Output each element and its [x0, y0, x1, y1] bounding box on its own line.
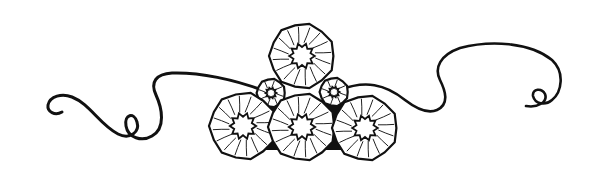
ornament-illustration	[0, 0, 604, 180]
rosette-group	[209, 24, 396, 160]
rosette-bottom-right-icon	[332, 96, 396, 160]
rosette-bottom-left-icon	[209, 93, 275, 159]
rosette-top-icon	[269, 24, 333, 88]
rosette-bottom-center-icon	[268, 94, 334, 160]
ornamental-divider: Decorative ornamental divider: a cluster…	[0, 0, 604, 180]
